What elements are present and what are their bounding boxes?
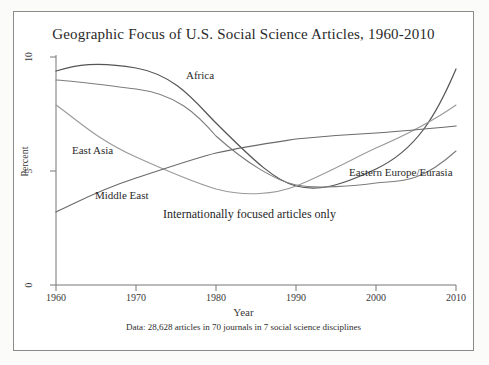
series-label-middle-east: Middle East [95, 189, 148, 201]
x-axis-title: Year [13, 306, 474, 318]
y-tick-label-0: 0 [24, 274, 34, 296]
series-label-africa: Africa [186, 69, 214, 81]
y-axis-title: Percent [19, 132, 30, 192]
chart-annotation: Internationally focused articles only [163, 207, 336, 222]
x-tick-label-2000: 2000 [356, 292, 396, 303]
x-tick-label-1980: 1980 [196, 292, 236, 303]
series-label-eastern-europe: Eastern Europe/Eurasia [349, 166, 453, 178]
series-line-east-asia [56, 105, 456, 194]
plot-area [13, 11, 474, 351]
x-tick-marks [56, 285, 456, 291]
x-tick-label-1990: 1990 [276, 292, 316, 303]
series-label-east-asia: East Asia [72, 144, 113, 156]
figure-canvas: Geographic Focus of U.S. Social Science … [0, 0, 489, 365]
x-tick-label-1960: 1960 [36, 292, 76, 303]
chart-footnote: Data: 28,628 articles in 70 journals in … [13, 322, 474, 332]
y-tick-label-10: 10 [24, 46, 34, 68]
x-tick-label-1970: 1970 [116, 292, 156, 303]
y-tick-marks [50, 57, 56, 285]
x-tick-label-2010: 2010 [436, 292, 476, 303]
